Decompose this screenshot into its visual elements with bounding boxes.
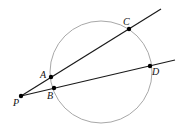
point-p-dot (19, 94, 23, 98)
point-b-label: B (47, 90, 53, 101)
point-c: C (123, 16, 131, 31)
point-c-label: C (123, 16, 130, 27)
point-p-label: P (12, 97, 19, 108)
point-p: P (12, 94, 23, 108)
point-c-dot (127, 27, 131, 31)
point-a-label: A (39, 69, 47, 80)
geometry-figure: P A B C D (0, 0, 187, 130)
point-a-dot (49, 75, 53, 79)
point-d-label: D (151, 66, 160, 77)
point-d: D (148, 64, 160, 77)
circle (50, 21, 152, 123)
point-a: A (39, 69, 53, 80)
diagram-canvas: P A B C D (0, 0, 187, 130)
